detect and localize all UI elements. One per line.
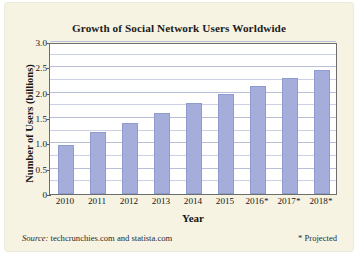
bar-2016-projected [250, 86, 266, 194]
y-tick-label: 3.0 [21, 38, 47, 48]
x-tick-label: 2015 [216, 196, 234, 206]
y-tick-label: 2.5 [21, 63, 47, 73]
x-tick-label: 2012 [120, 196, 138, 206]
projected-note: * Projected [298, 233, 337, 243]
source-label: Source: [22, 233, 48, 243]
bar-2013 [154, 113, 170, 194]
x-tick-label: 2017* [278, 196, 301, 206]
y-tick-label: 0 [21, 190, 47, 200]
y-axis-tick-labels: 00.51.01.52.02.53.0 [5, 43, 47, 195]
x-tick-label: 2016* [246, 196, 269, 206]
bar-2017-projected [282, 78, 298, 194]
source-note: Source: techcrunchies.com and statista.c… [22, 233, 172, 243]
bar-2010 [58, 145, 74, 194]
x-tick-label: 2013 [152, 196, 170, 206]
x-axis-title: Year [49, 212, 337, 224]
bar-2011 [90, 132, 106, 194]
bar-2014 [186, 103, 202, 194]
x-tick-label: 2011 [88, 196, 106, 206]
chart-title: Growth of Social Network Users Worldwide [5, 22, 353, 34]
x-tick-label: 2014 [184, 196, 202, 206]
y-tick-label: 2.0 [21, 89, 47, 99]
x-tick-label: 2010 [56, 196, 74, 206]
y-tick-label: 0.5 [21, 165, 47, 175]
y-tick-label: 1.5 [21, 114, 47, 124]
bar-2012 [122, 123, 138, 194]
bars-layer [50, 44, 336, 194]
gridline [50, 41, 336, 42]
source-text: techcrunchies.com and statista.com [51, 233, 173, 243]
y-tick-label: 1.0 [21, 139, 47, 149]
plot-area [49, 43, 337, 195]
x-tick-label: 2018* [310, 196, 333, 206]
bar-2015 [218, 94, 234, 194]
x-axis-tick-labels: 2010201120122013201420152016*2017*2018* [49, 196, 337, 210]
figure-card: Growth of Social Network Users Worldwide… [5, 3, 353, 251]
bar-2018-projected [314, 70, 330, 194]
